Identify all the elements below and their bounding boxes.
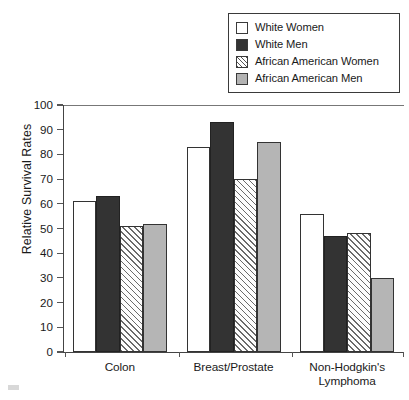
legend-swatch-white-women-icon: [236, 22, 248, 34]
bar: [143, 224, 167, 352]
bar: [324, 236, 348, 352]
bar: [210, 122, 234, 352]
legend-label: White Men: [255, 38, 308, 51]
bar: [73, 201, 97, 352]
x-axis-group-label: Breast/Prostate: [177, 360, 291, 374]
legend-item-african-american-men: African American Men: [236, 70, 393, 87]
y-axis-tick-label: 0: [29, 346, 53, 358]
bar: [96, 196, 120, 352]
legend-swatch-african-american-women-icon: [236, 56, 248, 68]
x-axis-tick: [403, 352, 404, 357]
x-axis-group-label-line: Non-Hodgkin's: [290, 360, 404, 374]
bar: [347, 233, 371, 352]
legend-label: African American Men: [255, 72, 362, 85]
chart-legend: White Women White Men African American W…: [228, 13, 400, 93]
page-corner-artifact: [8, 385, 19, 390]
bar-chart: White Women White Men African American W…: [0, 0, 409, 400]
bar: [234, 179, 258, 352]
x-axis-group-label-line: Lymphoma: [290, 374, 404, 388]
bar: [371, 278, 395, 352]
x-axis-tick: [292, 352, 293, 357]
legend-label: White Women: [255, 21, 324, 34]
x-axis-group-label-line: Breast/Prostate: [177, 360, 291, 374]
y-axis-tick-label: 20: [29, 297, 53, 309]
legend-item-white-women: White Women: [236, 19, 393, 36]
bar: [300, 214, 324, 352]
x-axis-group-label: Non-Hodgkin'sLymphoma: [290, 360, 404, 388]
x-axis-line: [63, 352, 404, 353]
y-axis-tick-label: 10: [29, 321, 53, 333]
x-axis-tick: [65, 352, 66, 357]
x-axis-group-label: Colon: [63, 360, 177, 374]
legend-label: African American Women: [255, 55, 379, 68]
legend-swatch-african-american-men-icon: [236, 73, 248, 85]
bar: [120, 226, 144, 352]
bar: [187, 147, 211, 352]
x-axis-tick: [179, 352, 180, 357]
plot-area: [63, 105, 403, 352]
legend-item-african-american-women: African American Women: [236, 53, 393, 70]
legend-swatch-white-men-icon: [236, 39, 248, 51]
x-axis-group-label-line: Colon: [63, 360, 177, 374]
bar: [257, 142, 281, 352]
y-axis-title: Relative Survival Rates: [20, 99, 34, 279]
legend-item-white-men: White Men: [236, 36, 393, 53]
